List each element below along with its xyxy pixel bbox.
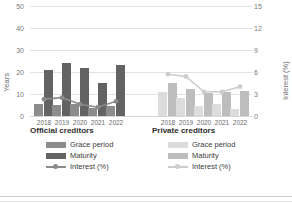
- interest-point: [60, 95, 65, 100]
- y-tick-right: 0: [254, 113, 278, 120]
- interest-point: [166, 72, 171, 77]
- legend-official-creditors: Official creditors Grace period Maturity…: [30, 126, 113, 172]
- legend-item-label: Grace period: [70, 140, 113, 149]
- legend-item-label: Interest (%): [192, 162, 231, 171]
- interest-line: [168, 74, 240, 92]
- legend-item: Maturity: [168, 150, 235, 161]
- x-axis-line: [30, 116, 252, 117]
- y-tick-left: 0: [0, 113, 24, 120]
- grace-period-swatch: [168, 142, 188, 148]
- legend-item: Grace period: [46, 139, 113, 150]
- y-tick-right: 9: [254, 47, 278, 54]
- y-tick-left: 50: [0, 3, 24, 10]
- left-axis-title: Years: [2, 73, 11, 92]
- y-tick-right: 15: [254, 3, 278, 10]
- legend-item: Grace period: [168, 139, 235, 150]
- legend-item: Interest (%): [168, 161, 235, 172]
- y-tick-left: 10: [0, 91, 24, 98]
- y-tick-left: 20: [0, 69, 24, 76]
- legend-item: Interest (%): [46, 161, 113, 172]
- interest-point: [202, 89, 207, 94]
- legend-item-label: Maturity: [192, 151, 219, 160]
- legend-item-label: Interest (%): [70, 162, 109, 171]
- footer-line: [0, 201, 292, 202]
- y-tick-left: 40: [0, 25, 24, 32]
- plot-area: [30, 6, 252, 116]
- legend-item-label: Grace period: [192, 140, 235, 149]
- interest-point: [42, 97, 47, 102]
- x-tick-label: 2022: [229, 119, 251, 126]
- legend-item-label: Maturity: [70, 151, 97, 160]
- legend-item: Maturity: [46, 150, 113, 161]
- chart-figure: Years Interest (%) 01020304050 03691215 …: [0, 0, 292, 203]
- maturity-swatch: [168, 153, 188, 159]
- legend-title: Private creditors: [152, 126, 235, 135]
- y-tick-left: 30: [0, 47, 24, 54]
- y-tick-right: 3: [254, 91, 278, 98]
- grace-period-swatch: [46, 142, 66, 148]
- maturity-swatch: [46, 153, 66, 159]
- interest-point: [96, 105, 101, 110]
- interest-line-marker: [46, 163, 66, 170]
- footer-divider: [0, 196, 292, 197]
- x-tick-label: 2022: [105, 119, 127, 126]
- interest-point: [220, 89, 225, 94]
- interest-lines-layer: [30, 6, 252, 116]
- interest-point: [114, 99, 119, 104]
- y-tick-right: 12: [254, 25, 278, 32]
- interest-line-marker: [168, 163, 188, 170]
- interest-point: [238, 84, 243, 89]
- right-axis-title: Interest (%): [281, 61, 290, 100]
- y-tick-right: 6: [254, 69, 278, 76]
- legend-title: Official creditors: [30, 126, 113, 135]
- legend-private-creditors: Private creditors Grace period Maturity …: [152, 126, 235, 172]
- interest-point: [184, 74, 189, 79]
- interest-point: [78, 102, 83, 107]
